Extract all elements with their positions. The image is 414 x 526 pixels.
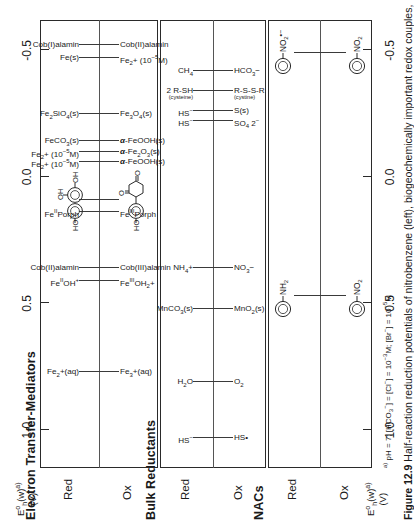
couple-connector — [193, 120, 233, 121]
couple-red-label: FeIIOH+ — [0, 277, 79, 288]
couple-connector — [79, 44, 119, 45]
couple-ox-label: HS• — [234, 434, 352, 442]
couple-connector — [79, 113, 119, 114]
figure-caption: Figure 12.9 Half-reaction reduction pote… — [402, 0, 414, 520]
couple-red-label: Fe2+ (10−5M) — [0, 148, 79, 161]
axis-tick-label: 0.0 — [383, 151, 397, 203]
couple-red-label: Fe(s) — [0, 54, 79, 62]
couple-ox-label: α-FeOOH(s) — [120, 138, 238, 146]
couple-connector — [79, 141, 119, 142]
svg-text:NO2•−: NO2•− — [277, 30, 289, 52]
couple-ox-label: O2 — [234, 378, 352, 388]
axis-label-bottom: Eoh(w)a)(V) — [364, 482, 388, 516]
couple-red-label: Cob(I)alamin — [0, 41, 79, 49]
couple-connector — [79, 280, 119, 281]
couple-ox-label: Fe2+ (10−5M) — [120, 54, 238, 67]
panel-title-nacs: NACs — [252, 486, 266, 520]
panel-midline-electron-transfer-mediators — [99, 20, 100, 468]
couple-ox-label: Fe3+(aq) — [120, 368, 238, 378]
couple-ox-label: α-FeOOH(s) — [120, 158, 238, 166]
svg-text:O: O — [133, 170, 142, 176]
couple-connector — [193, 70, 233, 71]
couple-red-label: HOOHOH — [59, 169, 89, 231]
column-header-ox-bulk-reductants: Ox — [232, 485, 244, 500]
couple-connector — [193, 308, 233, 309]
couple-ox-label: α-Fe2O3(s) — [120, 148, 238, 158]
couple-connector — [79, 151, 119, 152]
couple-ox-label: NO3− — [234, 264, 352, 274]
panel-midline-bulk-reductants — [213, 20, 214, 468]
column-header-red-electron-transfer-mediators: Red — [62, 479, 74, 500]
couple-ox-label: SO4 2− — [234, 117, 352, 130]
axis-unit: (V) — [377, 493, 388, 506]
couple-ox-label: MnO2(s) — [234, 305, 352, 315]
svg-text:HO: HO — [132, 219, 141, 230]
svg-text:OH: OH — [71, 171, 80, 182]
column-header-red-bulk-reductants: Red — [179, 479, 191, 500]
svg-text:O: O — [117, 190, 126, 196]
figure-caption-text: Half-reaction reduction potentials of ni… — [402, 5, 414, 462]
column-header-ox-electron-transfer-mediators: Ox — [121, 485, 133, 500]
couple-connector — [294, 295, 346, 296]
couple-connector — [79, 267, 119, 268]
couple-ox-label: FeIIIOH2+ — [120, 277, 238, 290]
svg-text:NO2: NO2 — [353, 36, 363, 52]
couple-connector — [79, 57, 119, 58]
couple-ox-label: HCO3− — [234, 67, 352, 77]
couple-connector — [79, 161, 119, 162]
couple-red-label: Fe2+(aq) — [0, 368, 79, 378]
column-header-ox-nacs: Ox — [338, 485, 350, 500]
axis-tick-label: -0.5 — [20, 24, 34, 76]
svg-text:OH: OH — [56, 188, 65, 199]
svg-text:NH2: NH2 — [279, 279, 289, 295]
couple-ox-label: Fe3O4(s) — [120, 110, 238, 120]
svg-text:HO: HO — [71, 219, 80, 230]
couple-ox-label: Cob(III)alamin — [120, 264, 238, 272]
couple-connector — [193, 381, 233, 382]
svg-text:NO2: NO2 — [353, 279, 363, 295]
couple-ox-label: HOOO — [120, 169, 150, 231]
figure-number: Figure 12.9 — [402, 465, 414, 520]
couple-connector — [79, 371, 119, 372]
axis-tick-label: -0.5 — [383, 24, 397, 76]
couple-connector — [193, 437, 233, 438]
couple-ox-label: R-S-S-R(cystine) — [234, 87, 352, 101]
couple-ox-label: Cob(II)alamin — [120, 41, 238, 49]
couple-connector — [294, 52, 346, 53]
couple-connector — [193, 90, 233, 91]
figure-footnote: a) pH = 7; [HCO3−] = [Cl−] = 10−3M; [Br−… — [382, 295, 394, 468]
couple-ox-label: S(s) — [234, 107, 352, 115]
couple-red-label: Fe2SiO4(s) — [0, 110, 79, 120]
column-header-red-nacs: Red — [286, 479, 298, 500]
couple-red-label: FeCO3(s) — [0, 138, 79, 148]
axis-symbol: Eoh(w)a) — [365, 482, 376, 516]
couple-red-label: Cob(II)alamin — [0, 264, 79, 272]
